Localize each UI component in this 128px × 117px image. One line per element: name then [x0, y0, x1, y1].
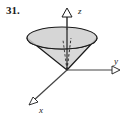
z-axis-arrowhead-icon: [62, 8, 72, 17]
x-axis-line: [33, 70, 67, 101]
figure-container: 31. z y x: [0, 0, 128, 117]
y-axis-label: y: [113, 56, 118, 66]
z-axis-label: z: [77, 6, 82, 16]
y-axis-arrowhead-icon: [112, 66, 120, 74]
cone-top-ellipse: [27, 27, 97, 49]
x-axis-label: x: [38, 105, 43, 115]
cone-diagram: z y x: [0, 0, 128, 117]
